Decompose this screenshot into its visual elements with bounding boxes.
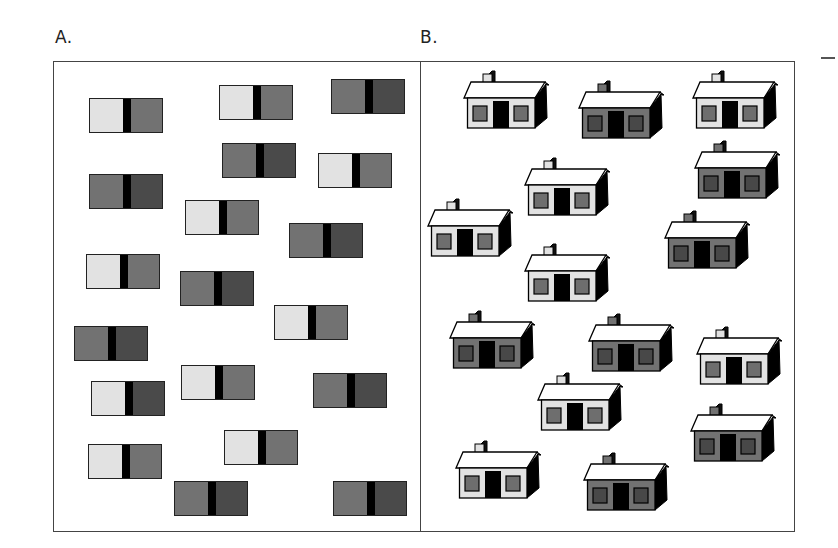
house-icon-light-wall xyxy=(696,326,782,386)
panel-b-label: B. xyxy=(420,27,438,47)
bicolor-tile-mid-dark xyxy=(174,481,248,516)
bicolor-tile-light-mid xyxy=(224,430,298,465)
bicolor-tile-mid-dark xyxy=(89,174,163,209)
tile-right-segment xyxy=(133,382,164,415)
bicolor-tile-light-mid xyxy=(185,200,259,235)
tile-divider xyxy=(214,272,222,305)
tile-divider xyxy=(323,224,331,257)
tile-left-segment xyxy=(223,144,256,177)
bicolor-tile-mid-dark xyxy=(289,223,363,258)
bicolor-tile-mid-dark xyxy=(222,143,296,178)
bicolor-tile-light-mid xyxy=(274,305,348,340)
tile-divider xyxy=(258,431,266,464)
tile-right-segment xyxy=(331,224,362,257)
tile-divider xyxy=(365,80,373,113)
tile-divider xyxy=(108,327,116,360)
house-icon-dark-wall xyxy=(664,210,750,270)
tile-left-segment xyxy=(319,154,352,187)
tile-divider xyxy=(123,175,131,208)
tile-left-segment xyxy=(182,366,215,399)
tile-divider xyxy=(215,366,223,399)
tile-right-segment xyxy=(128,255,159,288)
tile-divider xyxy=(308,306,316,339)
house-icon-dark-wall xyxy=(690,403,776,463)
tile-divider xyxy=(253,86,261,119)
house-icon-light-wall xyxy=(524,243,610,303)
bicolor-tile-mid-dark xyxy=(331,79,405,114)
tile-divider xyxy=(347,374,355,407)
tile-divider xyxy=(219,201,227,234)
tile-left-segment xyxy=(92,382,125,415)
house-icon-dark-wall xyxy=(449,310,535,370)
bicolor-tile-light-mid xyxy=(318,153,392,188)
house-icon-light-wall xyxy=(463,70,549,130)
tile-right-segment xyxy=(373,80,404,113)
house-icon-dark-wall xyxy=(588,313,674,373)
tile-left-segment xyxy=(225,431,258,464)
tile-right-segment xyxy=(222,272,253,305)
tile-left-segment xyxy=(89,445,122,478)
tile-left-segment xyxy=(275,306,308,339)
house-icon-light-wall xyxy=(427,198,513,258)
panel-a-label: A. xyxy=(55,27,73,47)
bicolor-tile-light-mid xyxy=(88,444,162,479)
tile-left-segment xyxy=(90,175,123,208)
house-icon-light-wall xyxy=(455,440,541,500)
tile-divider xyxy=(256,144,264,177)
tile-right-segment xyxy=(131,99,162,132)
tile-left-segment xyxy=(90,99,123,132)
house-icon-dark-wall xyxy=(694,140,780,200)
house-icon-light-wall xyxy=(692,70,778,130)
tile-left-segment xyxy=(220,86,253,119)
tile-right-segment xyxy=(116,327,147,360)
bicolor-tile-light-mid xyxy=(181,365,255,400)
tile-right-segment xyxy=(264,144,295,177)
edge-dash-mark xyxy=(821,57,835,59)
bicolor-tile-mid-dark xyxy=(333,481,407,516)
tile-divider xyxy=(123,99,131,132)
bicolor-tile-light-mid xyxy=(89,98,163,133)
house-icon-dark-wall xyxy=(578,80,664,140)
tile-right-segment xyxy=(130,445,161,478)
tile-divider xyxy=(208,482,216,515)
tile-left-segment xyxy=(334,482,367,515)
bicolor-tile-mid-dark xyxy=(180,271,254,306)
bicolor-tile-light-mid xyxy=(219,85,293,120)
tile-left-segment xyxy=(75,327,108,360)
tile-divider xyxy=(122,445,130,478)
bicolor-tile-light-dark xyxy=(91,381,165,416)
tile-right-segment xyxy=(316,306,347,339)
house-icon-light-wall xyxy=(524,157,610,217)
tile-right-segment xyxy=(261,86,292,119)
tile-divider xyxy=(125,382,133,415)
tile-left-segment xyxy=(181,272,214,305)
tile-right-segment xyxy=(355,374,386,407)
tile-right-segment xyxy=(227,201,258,234)
tile-divider xyxy=(352,154,360,187)
tile-divider xyxy=(367,482,375,515)
tile-right-segment xyxy=(360,154,391,187)
bicolor-tile-light-mid xyxy=(86,254,160,289)
tile-right-segment xyxy=(131,175,162,208)
tile-right-segment xyxy=(375,482,406,515)
tile-left-segment xyxy=(314,374,347,407)
tile-left-segment xyxy=(290,224,323,257)
bicolor-tile-mid-dark xyxy=(74,326,148,361)
tile-left-segment xyxy=(332,80,365,113)
house-icon-dark-wall xyxy=(583,452,669,512)
tile-divider xyxy=(120,255,128,288)
tile-left-segment xyxy=(175,482,208,515)
house-icon-light-wall xyxy=(537,372,623,432)
tile-left-segment xyxy=(186,201,219,234)
tile-left-segment xyxy=(87,255,120,288)
bicolor-tile-mid-dark xyxy=(313,373,387,408)
tile-right-segment xyxy=(266,431,297,464)
tile-right-segment xyxy=(223,366,254,399)
tile-right-segment xyxy=(216,482,247,515)
